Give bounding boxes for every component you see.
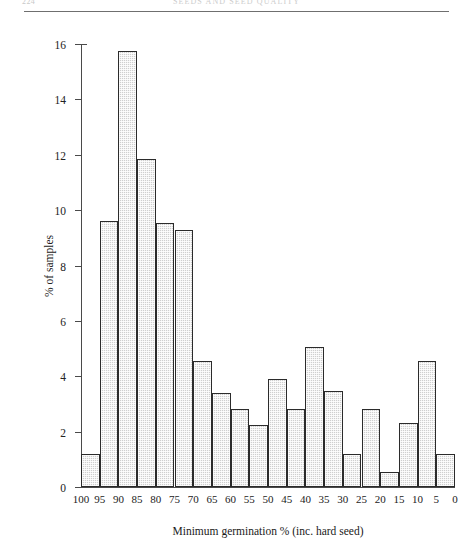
histogram-bar	[343, 454, 362, 487]
header-rule	[24, 11, 449, 12]
histogram-bar	[362, 409, 381, 487]
histogram-bar	[100, 221, 119, 487]
figure-page: 224 SEEDS AND SEED QUALITY % of samples …	[0, 0, 473, 558]
histogram-bar	[175, 230, 194, 487]
histogram-bar	[380, 472, 399, 487]
x-tick-label: 75	[169, 493, 180, 505]
x-tick-label: 65	[206, 493, 217, 505]
y-tick-label: 10	[55, 205, 67, 217]
x-axis-title: Minimum germination % (inc. hard seed)	[81, 525, 455, 537]
histogram-bar	[287, 409, 306, 487]
y-tick-label: 0	[60, 482, 66, 494]
histogram-bar	[156, 223, 175, 487]
histogram-bar	[399, 423, 418, 487]
histogram-bar	[212, 393, 231, 487]
histogram-bar	[118, 51, 137, 487]
histogram-bar	[436, 454, 455, 487]
y-tick-label: 4	[60, 371, 66, 383]
histogram-bar	[268, 379, 287, 487]
x-tick-label: 40	[300, 493, 311, 505]
histogram-bar	[324, 391, 343, 487]
histogram-bar	[193, 361, 212, 487]
x-tick-label: 70	[188, 493, 199, 505]
x-tick-label: 25	[356, 493, 367, 505]
y-axis-title: % of samples	[43, 235, 55, 297]
histogram-bar	[137, 159, 156, 487]
histogram-bar	[231, 409, 250, 487]
y-tick-label: 14	[55, 94, 67, 106]
header-title: SEEDS AND SEED QUALITY	[0, 0, 473, 6]
x-tick-label: 10	[412, 493, 423, 505]
x-tick-label: 5	[434, 493, 440, 505]
histogram-plot: % of samples 0246810121416 1009590858075…	[81, 44, 455, 487]
x-axis-ticks: 1009590858075706560555045403530252015105…	[81, 493, 455, 511]
histogram-bar	[305, 347, 324, 487]
y-tick-label: 12	[55, 150, 67, 162]
histogram-bar	[81, 454, 100, 487]
x-tick-label: 60	[225, 493, 236, 505]
y-tick-label: 6	[60, 316, 66, 328]
x-tick-label: 50	[263, 493, 274, 505]
histogram-bar	[249, 425, 268, 487]
x-tick-label: 85	[132, 493, 143, 505]
running-header: 224 SEEDS AND SEED QUALITY	[0, 0, 473, 14]
x-tick-label: 55	[244, 493, 255, 505]
x-tick-label: 0	[452, 493, 458, 505]
x-tick-label: 35	[319, 493, 330, 505]
y-tick-label: 16	[55, 39, 67, 51]
histogram-bar	[418, 361, 437, 487]
bar-series	[81, 44, 455, 487]
y-tick: 0	[75, 487, 81, 488]
x-tick-label: 90	[113, 493, 124, 505]
y-tick-label: 8	[60, 260, 66, 272]
x-tick-label: 100	[73, 493, 90, 505]
x-tick-label: 95	[94, 493, 105, 505]
x-tick-label: 80	[150, 493, 161, 505]
x-tick-label: 20	[375, 493, 386, 505]
y-tick-label: 2	[60, 426, 66, 438]
x-tick-label: 15	[393, 493, 404, 505]
x-axis-line	[81, 487, 455, 488]
x-tick-label: 45	[281, 493, 292, 505]
x-tick-label: 30	[337, 493, 348, 505]
